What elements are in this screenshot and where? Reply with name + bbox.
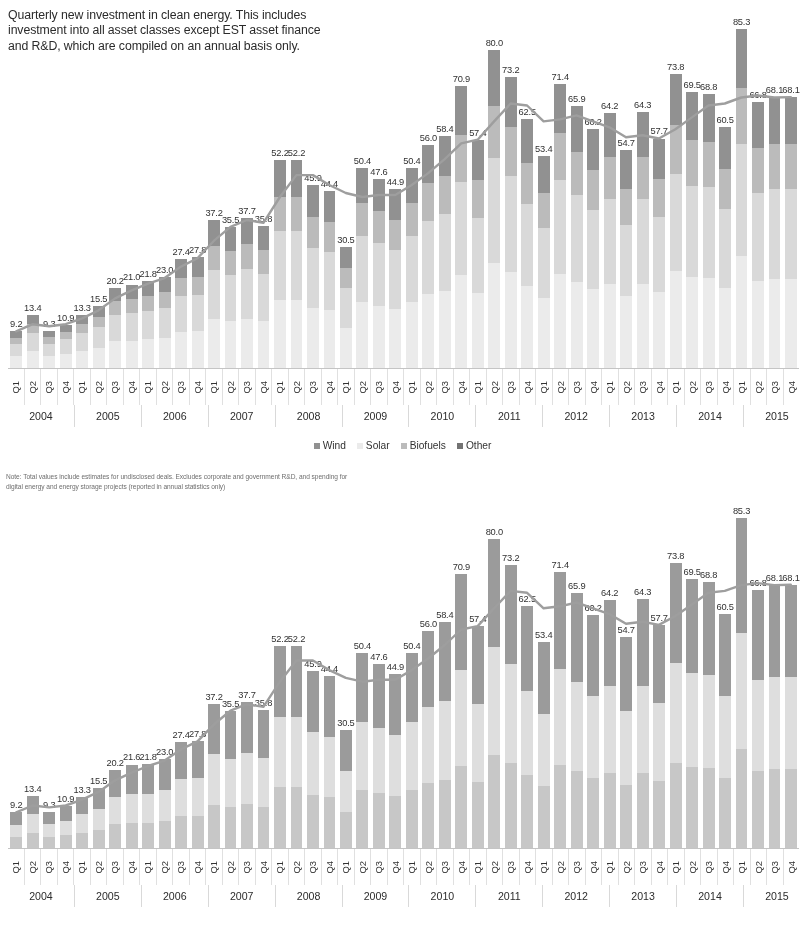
bar-segment-biofuels (736, 88, 748, 145)
stacked-bar (373, 179, 385, 368)
bar-value-label: 37.7 (238, 206, 255, 216)
bar-value-label: 57.4 (469, 128, 486, 138)
quarter-label: Q2 (357, 861, 368, 874)
legend-item[interactable]: Wind (314, 440, 346, 451)
stacked-bar (769, 97, 781, 368)
bar-segment-wind (554, 180, 566, 274)
bar-slot: 57.4 (470, 500, 486, 848)
quarter-label: Q3 (703, 381, 714, 394)
bar-slot: 15.5 (90, 10, 106, 368)
bar-value-label: 73.8 (667, 551, 684, 561)
year-label: 2005 (75, 405, 142, 427)
quarter-tick: Q2 (91, 369, 108, 405)
bar-value-label: 71.4 (552, 72, 569, 82)
quarter-label: Q2 (555, 381, 566, 394)
quarter-label: Q3 (373, 861, 384, 874)
bar-segment-wind (472, 218, 484, 293)
quarter-tick: Q3 (173, 849, 190, 885)
bar-segment-other (175, 259, 187, 278)
quarter-label: Q4 (60, 861, 71, 874)
bar-segment-emea (241, 702, 253, 753)
bar-slot: 60.2 (585, 10, 601, 368)
quarter-label: Q3 (703, 861, 714, 874)
quarter-tick: Q3 (635, 849, 652, 885)
bar-value-label: 45.9 (304, 659, 321, 669)
legend-item[interactable]: Biofuels (401, 440, 446, 451)
year-label: 2006 (142, 405, 209, 427)
bar-value-label: 50.4 (354, 156, 371, 166)
bar-slot: 71.4 (552, 10, 568, 368)
bar-segment-biofuels (752, 148, 764, 193)
quarter-tick: Q4 (190, 369, 207, 405)
quarter-tick: Q3 (635, 369, 652, 405)
bar-segment-emea (60, 806, 72, 821)
bar-segment-biofuels (241, 244, 253, 269)
bar-segment-emea (43, 812, 55, 824)
quarter-tick: Q1 (140, 849, 157, 885)
quarter-tick: Q3 (569, 369, 586, 405)
quarter-label: Q3 (175, 381, 186, 394)
quarter-tick: Q4 (652, 849, 669, 885)
quarter-label: Q4 (522, 381, 533, 394)
bar-segment-solar (159, 338, 171, 368)
bar-segment-biofuels (769, 144, 781, 189)
bar-segment-apac (241, 804, 253, 848)
legend-item[interactable]: Other (457, 440, 491, 451)
bar-segment-biofuels (785, 144, 797, 189)
quarter-tick: Q4 (454, 849, 471, 885)
quarter-tick: Q3 (437, 369, 454, 405)
bar-segment-other (373, 179, 385, 212)
stacked-bar (736, 518, 748, 848)
stacked-bar (620, 637, 632, 849)
quarter-label: Q2 (93, 381, 104, 394)
bar-segment-other (488, 50, 500, 106)
quarter-label-row-1: Q1Q2Q3Q4Q1Q2Q3Q4Q1Q2Q3Q4Q1Q2Q3Q4Q1Q2Q3Q4… (8, 368, 799, 405)
bar-value-label: 62.5 (519, 594, 536, 604)
bar-slot: 60.5 (717, 10, 733, 368)
quarter-label: Q4 (126, 861, 137, 874)
bar-slot: 27.4 (173, 10, 189, 368)
legend-item[interactable]: Solar (357, 440, 390, 451)
bar-segment-solar (241, 319, 253, 368)
bar-value-label: 80.0 (486, 527, 503, 537)
bar-slot: 45.9 (305, 10, 321, 368)
bar-segment-amer (60, 821, 72, 836)
bar-segment-wind (620, 225, 632, 297)
stacked-bar (455, 574, 467, 848)
bar-slot: 47.6 (371, 500, 387, 848)
bar-segment-solar (472, 293, 484, 368)
bar-segment-other (571, 106, 583, 152)
stacked-bar (422, 631, 434, 848)
quarter-tick: Q4 (322, 849, 339, 885)
quarter-label: Q4 (654, 861, 665, 874)
stacked-bar (521, 606, 533, 848)
bar-slot: 44.4 (321, 500, 337, 848)
year-label: 2012 (543, 405, 610, 427)
bar-value-label: 85.3 (733, 17, 750, 27)
stacked-bar (422, 145, 434, 368)
bar-segment-apac (60, 835, 72, 848)
stacked-bar (538, 642, 550, 848)
bar-segment-apac (538, 786, 550, 848)
bar-segment-other (538, 156, 550, 193)
bar-slot: 69.5 (684, 500, 700, 848)
quarter-label: Q1 (670, 381, 681, 394)
bar-segment-other (258, 226, 270, 251)
bar-segment-biofuels (422, 183, 434, 220)
bar-segment-solar (736, 256, 748, 368)
bar-segment-amer (291, 717, 303, 788)
quarter-label: Q4 (786, 381, 797, 394)
year-label: 2007 (209, 405, 276, 427)
bar-slot: 64.2 (601, 500, 617, 848)
quarter-label: Q1 (604, 381, 615, 394)
quarter-tick: Q2 (553, 369, 570, 405)
bar-slot: 37.7 (239, 500, 255, 848)
quarter-label: Q4 (324, 381, 335, 394)
bar-slot: 21.8 (140, 500, 156, 848)
bar-segment-biofuels (274, 197, 286, 232)
bar-segment-apac (653, 781, 665, 848)
stacked-bar (587, 615, 599, 848)
bar-segment-wind (10, 344, 22, 356)
bar-slot: 45.9 (305, 500, 321, 848)
quarter-label: Q4 (522, 861, 533, 874)
